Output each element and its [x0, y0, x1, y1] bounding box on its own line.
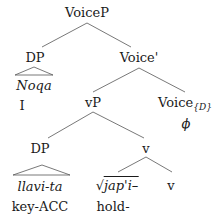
node-voicep: VoiceP: [65, 6, 109, 19]
node-dp-object: DP: [30, 142, 49, 155]
root-gloss: hold-: [96, 200, 129, 213]
object-gloss: key-ACC: [12, 200, 69, 213]
subject-word: Noqa: [16, 79, 51, 92]
node-vp: vP: [85, 96, 101, 109]
voice-head-label: Voice: [158, 95, 193, 110]
node-root: √jap'i–: [96, 179, 139, 192]
root-form: jap'i–: [104, 176, 138, 193]
node-voice-bar: Voice': [120, 51, 159, 64]
node-voice-head: Voice{D}: [158, 96, 212, 112]
object-word: llavi-ta: [18, 180, 63, 193]
object-gloss-case: ACC: [39, 199, 68, 214]
node-dp-subject: DP: [25, 51, 44, 64]
node-v-phrase: v: [142, 142, 149, 155]
object-gloss-stem: key-: [12, 199, 39, 214]
voice-head-content: ϕ: [182, 117, 191, 130]
voice-head-subscript: {D}: [193, 102, 212, 112]
subject-gloss: I: [19, 99, 24, 112]
node-v-head: v: [167, 179, 174, 192]
